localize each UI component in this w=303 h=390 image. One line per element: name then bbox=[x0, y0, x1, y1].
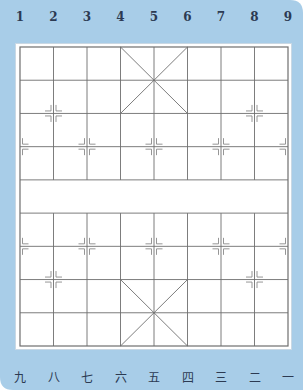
file-label-top-2: 2 bbox=[44, 10, 64, 24]
file-label-top-4: 4 bbox=[111, 10, 131, 24]
file-label-bottom-5: 五 bbox=[144, 368, 164, 385]
file-label-bottom-3: 七 bbox=[77, 368, 97, 385]
file-label-top-7: 7 bbox=[211, 10, 231, 24]
file-label-bottom-9: 一 bbox=[278, 368, 298, 385]
file-label-top-3: 3 bbox=[77, 10, 97, 24]
file-label-top-1: 1 bbox=[10, 10, 30, 24]
file-label-bottom-2: 八 bbox=[44, 368, 64, 385]
file-label-bottom-8: 二 bbox=[245, 368, 265, 385]
file-label-bottom-7: 三 bbox=[211, 368, 231, 385]
file-label-top-6: 6 bbox=[178, 10, 198, 24]
board-grid[interactable] bbox=[0, 0, 303, 390]
file-label-bottom-4: 六 bbox=[111, 368, 131, 385]
file-label-bottom-6: 四 bbox=[178, 368, 198, 385]
file-label-bottom-1: 九 bbox=[10, 368, 30, 385]
file-label-top-5: 5 bbox=[144, 10, 164, 24]
file-label-top-8: 8 bbox=[245, 10, 265, 24]
file-label-top-9: 9 bbox=[278, 10, 298, 24]
